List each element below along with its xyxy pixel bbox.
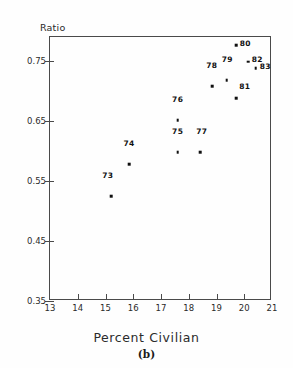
y-tick-mark	[50, 181, 54, 182]
x-tick-label: 14	[72, 303, 83, 313]
y-tick-label: 0.65	[27, 116, 46, 126]
x-tick-label: 13	[45, 303, 56, 313]
y-axis-title: Ratio	[40, 22, 65, 33]
data-point	[255, 67, 258, 70]
data-point-label: 83	[260, 61, 271, 70]
data-point-label: 81	[239, 82, 250, 91]
x-tick-mark	[78, 294, 79, 299]
y-tick-label: 0.55	[27, 176, 46, 186]
x-tick-mark	[161, 294, 162, 299]
y-tick-label: 0.35	[27, 296, 46, 306]
y-tick-mark	[50, 301, 54, 302]
data-point	[128, 163, 131, 166]
data-point-label: 75	[172, 127, 183, 136]
x-tick-label: 18	[183, 303, 194, 313]
data-point	[247, 60, 250, 63]
x-tick-mark	[106, 294, 107, 299]
data-point	[176, 151, 179, 154]
x-tick-label: 17	[156, 303, 167, 313]
data-point-label: 76	[172, 95, 183, 104]
data-point-label: 80	[240, 39, 251, 48]
x-tick-label: 19	[211, 303, 222, 313]
data-point	[225, 79, 228, 82]
x-tick-label: 15	[100, 303, 111, 313]
x-tick-label: 16	[128, 303, 139, 313]
x-tick-label: 21	[267, 303, 278, 313]
data-point	[199, 151, 202, 154]
x-tick-mark	[244, 294, 245, 299]
data-point-label: 78	[206, 61, 217, 70]
x-tick-mark	[133, 294, 134, 299]
data-point-label: 74	[124, 139, 135, 148]
plot-area: 0.350.450.550.650.75 131415161718192021 …	[49, 36, 271, 300]
data-point	[211, 85, 214, 88]
data-point	[235, 97, 238, 100]
x-axis-title: Percent Civilian	[0, 330, 293, 345]
x-tick-mark	[189, 294, 190, 299]
data-point	[110, 195, 113, 198]
y-tick-mark	[50, 61, 54, 62]
x-tick-mark	[217, 294, 218, 299]
data-point-label: 77	[196, 127, 207, 136]
data-point	[176, 119, 179, 122]
x-tick-label: 20	[239, 303, 250, 313]
y-tick-label: 0.45	[27, 236, 46, 246]
data-point	[235, 44, 238, 47]
y-tick-label: 0.75	[27, 56, 46, 66]
y-tick-mark	[50, 241, 54, 242]
data-point-label: 73	[102, 171, 113, 180]
scatter-plot-figure: Ratio 0.350.450.550.650.75 1314151617181…	[0, 0, 293, 368]
y-tick-mark	[50, 121, 54, 122]
figure-caption: (b)	[0, 348, 293, 360]
data-point-label: 79	[222, 55, 233, 64]
